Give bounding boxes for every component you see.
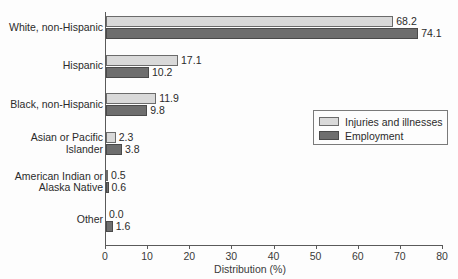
bar-value-label: 0.5 [111,169,126,181]
legend-swatch-employment-icon [319,131,339,140]
x-tick-label: 10 [141,250,153,262]
bar-employment [106,105,147,116]
bar-value-label: 17.1 [181,54,201,66]
x-tick-label: 80 [436,250,448,262]
bar-employment [106,28,418,39]
bar-value-label: 11.9 [159,92,179,104]
bar-value-label: 0.6 [112,181,127,193]
y-axis-line [105,12,106,245]
x-tick-label: 40 [268,250,280,262]
bar-value-label: 2.3 [119,131,134,143]
category-label: Black, non-Hispanic [10,99,103,111]
bar-employment [106,67,149,78]
x-tick-label: 60 [352,250,364,262]
legend-label-employment: Employment [345,130,403,142]
x-tick-mark [231,245,232,249]
x-tick-label: 70 [394,250,406,262]
x-tick-label: 20 [183,250,195,262]
chart-legend: Injuries and illnesses Employment [313,110,448,145]
bar-value-label: 74.1 [421,27,441,39]
x-axis-title: Distribution (%) [0,263,458,275]
x-tick-mark [189,245,190,249]
x-tick-mark [358,245,359,249]
x-tick-mark [442,245,443,249]
category-label: White, non-Hispanic [9,22,103,34]
category-label: Asian or Pacific Islander [31,132,103,155]
x-tick-mark [274,245,275,249]
bar-value-label: 10.2 [152,66,172,78]
legend-label-injuries: Injuries and illnesses [345,116,442,128]
bar-value-label: 1.6 [116,220,131,232]
x-tick-mark [400,245,401,249]
x-tick-label: 50 [310,250,322,262]
bar-injuries [106,93,156,104]
bar-chart: 01020304050607080 White, non-HispanicHis… [0,0,458,279]
bar-injuries [106,16,393,27]
bar-value-label: 0.0 [109,208,124,220]
bar-employment [106,144,122,155]
x-tick-label: 0 [102,250,108,262]
legend-item-injuries: Injuries and illnesses [319,115,442,128]
bar-injuries [106,170,108,181]
bar-injuries [106,132,116,143]
category-label: Other [77,214,103,226]
category-label: American Indian or Alaska Native [15,170,103,193]
x-tick-label: 30 [226,250,238,262]
x-tick-mark [105,245,106,249]
bar-employment [106,182,109,193]
bar-injuries [106,55,178,66]
category-label: Hispanic [63,60,103,72]
legend-swatch-injuries-icon [319,117,339,126]
legend-item-employment: Employment [319,129,442,142]
x-tick-mark [147,245,148,249]
bar-value-label: 3.8 [125,143,140,155]
bar-value-label: 68.2 [396,15,416,27]
bar-employment [106,221,113,232]
bar-value-label: 9.8 [150,104,165,116]
x-tick-mark [316,245,317,249]
